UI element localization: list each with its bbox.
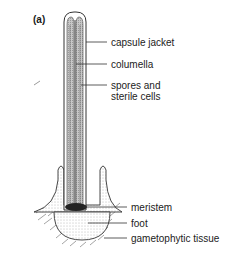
label-capsule-jacket: capsule jacket <box>111 37 174 48</box>
foot <box>54 212 110 240</box>
label-spores-line2: sterile cells <box>111 91 160 102</box>
label-columella: columella <box>111 59 153 70</box>
label-foot: foot <box>131 218 148 229</box>
gametophytic-tissue <box>34 81 40 85</box>
label-meristem: meristem <box>131 202 172 213</box>
label-spores-line1: spores and <box>111 80 160 91</box>
label-gametophytic-tissue: gametophytic tissue <box>131 233 219 244</box>
